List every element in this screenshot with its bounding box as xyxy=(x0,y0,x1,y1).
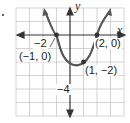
point-neg1-0 xyxy=(54,33,59,38)
tick-y-neg4: −4 xyxy=(56,84,71,95)
label-leader xyxy=(50,38,55,47)
tick-x-neg2: −2 xyxy=(33,38,48,49)
point-label-2-0: (2, 0) xyxy=(94,38,122,49)
point-label-1-neg2: (1, −2) xyxy=(84,65,118,76)
y-axis-label: y xyxy=(75,0,80,12)
x-axis-label: x xyxy=(117,24,122,36)
point-label-neg1-0: (−1, 0) xyxy=(18,51,52,62)
